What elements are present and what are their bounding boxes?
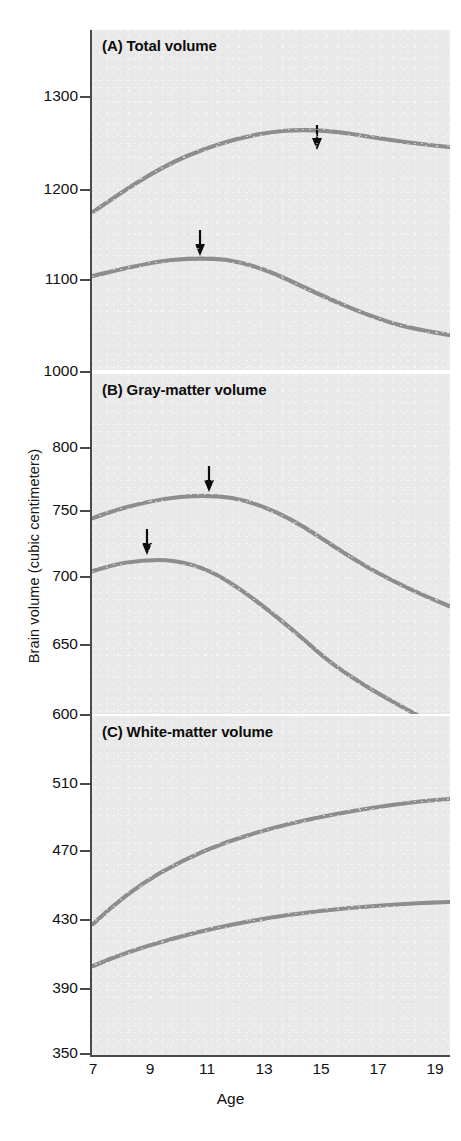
y-tick-label: 600	[22, 705, 78, 723]
panel-b-title: (B) Gray-matter volume	[102, 381, 267, 398]
x-tick-label: 11	[192, 1060, 222, 1078]
y-tick-mark	[80, 279, 91, 281]
panel-b-lower-arrow	[142, 529, 152, 555]
panel-a-title: (A) Total volume	[102, 37, 217, 54]
y-tick-mark	[80, 96, 91, 98]
x-tick-label: 7	[78, 1060, 108, 1078]
panel-c-plot	[92, 716, 450, 1056]
y-tick-mark	[80, 576, 91, 578]
panel-b-upper-arrow	[204, 466, 214, 492]
y-tick-label: 1000	[22, 362, 78, 380]
y-tick-label: 1100	[22, 270, 78, 288]
x-tick-label: 9	[135, 1060, 165, 1078]
panel-c-title: (C) White-matter volume	[102, 723, 273, 740]
y-tick-mark	[80, 510, 91, 512]
y-tick-mark	[80, 714, 91, 716]
brain-volume-figure: Brain volume (cubic centimeters) (A) Tot…	[0, 0, 461, 1141]
x-axis-line	[90, 1055, 450, 1057]
y-tick-mark	[80, 1053, 91, 1055]
y-tick-mark	[80, 447, 91, 449]
y-tick-label: 1300	[22, 87, 78, 105]
y-tick-label: 650	[22, 635, 78, 653]
panel-a-lower-arrow	[195, 230, 205, 256]
panel-a-plot	[92, 30, 450, 370]
y-tick-mark	[80, 988, 91, 990]
y-tick-label: 700	[22, 567, 78, 585]
y-tick-label: 510	[22, 774, 78, 792]
panel-a-lower-curve	[93, 259, 449, 336]
panel-c-lower-curve	[93, 902, 449, 966]
y-tick-label: 390	[22, 979, 78, 997]
y-tick-label: 430	[22, 910, 78, 928]
panel-a-total-volume: (A) Total volume	[92, 30, 450, 370]
x-tick-label: 17	[363, 1060, 393, 1078]
y-axis-title: Brain volume (cubic centimeters)	[26, 356, 42, 756]
x-axis-title: Age	[0, 1090, 461, 1108]
y-tick-label: 470	[22, 841, 78, 859]
y-tick-label: 1200	[22, 180, 78, 198]
y-axis-line	[90, 30, 92, 1056]
y-tick-mark	[80, 919, 91, 921]
panel-a-upper-curve	[93, 130, 449, 212]
panel-b-plot	[92, 374, 450, 714]
y-tick-mark	[80, 850, 91, 852]
panel-b-gray-matter-volume: (B) Gray-matter volume	[92, 374, 450, 714]
panel-c-white-matter-volume: (C) White-matter volume	[92, 716, 450, 1056]
y-tick-mark	[80, 189, 91, 191]
x-tick-label: 15	[306, 1060, 336, 1078]
y-tick-label: 350	[22, 1044, 78, 1062]
x-tick-label: 13	[249, 1060, 279, 1078]
y-tick-mark	[80, 371, 91, 373]
x-tick-label: 19	[420, 1060, 450, 1078]
y-tick-mark	[80, 644, 91, 646]
y-tick-mark	[80, 783, 91, 785]
y-tick-label: 800	[22, 438, 78, 456]
y-tick-label: 750	[22, 501, 78, 519]
